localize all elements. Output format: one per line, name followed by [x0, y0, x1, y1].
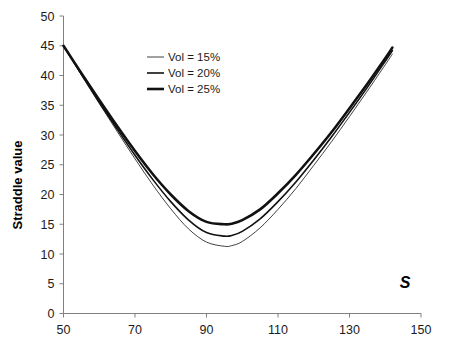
legend: Vol = 15%Vol = 20%Vol = 25% [147, 51, 220, 95]
y-tick-label: 40 [41, 69, 55, 83]
x-tick-label: 70 [128, 323, 142, 337]
series-group [64, 46, 393, 247]
y-tick-label: 20 [41, 188, 55, 202]
x-tick-label: 130 [339, 323, 360, 337]
x-tick-label: 50 [57, 323, 71, 337]
y-tick-label: 0 [48, 307, 55, 321]
y-tick-label: 50 [41, 10, 55, 24]
series-line-3 [64, 46, 393, 225]
y-tick-label: 30 [41, 129, 55, 143]
y-tick-label: 45 [41, 39, 55, 53]
y-tick-label: 15 [41, 218, 55, 232]
x-tick-label: 90 [200, 323, 214, 337]
s-axis-label: S [400, 274, 411, 291]
y-tick-label: 25 [41, 158, 55, 172]
x-tick-group: 507090110130150 [57, 314, 432, 337]
y-tick-label: 10 [41, 248, 55, 262]
legend-label-1: Vol = 15% [168, 51, 220, 63]
chart-canvas: 05101520253035404550 507090110130150 Str… [0, 0, 464, 349]
y-tick-label: 35 [41, 99, 55, 113]
y-tick-group: 05101520253035404550 [41, 10, 64, 322]
y-tick-label: 5 [48, 277, 55, 291]
legend-label-3: Vol = 25% [168, 83, 220, 95]
y-axis-title: Straddle value [10, 141, 25, 230]
series-line-2 [64, 46, 393, 237]
series-line-1 [64, 46, 393, 247]
straddle-value-chart: 05101520253035404550 507090110130150 Str… [0, 0, 464, 349]
legend-label-2: Vol = 20% [168, 67, 220, 79]
x-tick-label: 110 [268, 323, 288, 337]
x-tick-label: 150 [411, 323, 432, 337]
